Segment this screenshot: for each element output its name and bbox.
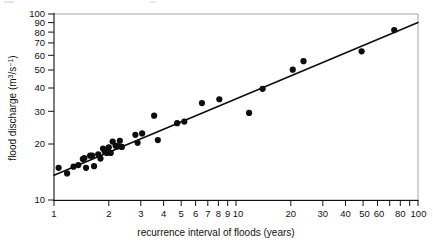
data-point <box>139 130 145 136</box>
data-point <box>359 48 365 54</box>
data-point <box>199 100 205 106</box>
y-axis-title-tail: ) <box>7 55 18 58</box>
x-tick-label-6: 6 <box>193 208 198 219</box>
y-tick-label-60: 60 <box>34 50 45 61</box>
data-point <box>75 162 81 168</box>
data-point <box>106 144 112 150</box>
x-tick-label-2: 2 <box>106 208 111 219</box>
y-axis-title-sup-minus1: −1 <box>7 59 14 67</box>
y-tick-label-40: 40 <box>34 82 45 93</box>
y-axis-title: flood discharge (m3/s−1) <box>7 55 18 160</box>
data-point <box>300 58 306 64</box>
svg-text:flood discharge (m3/s−1): flood discharge (m3/s−1) <box>7 55 18 160</box>
data-point <box>56 165 62 171</box>
x-tick-label-3: 3 <box>138 208 143 219</box>
y-tick-label-10: 10 <box>34 194 45 205</box>
y-tick-label-20: 20 <box>34 138 45 149</box>
data-point <box>290 67 296 73</box>
x-tick-label-80: 80 <box>395 208 406 219</box>
data-point <box>64 170 70 176</box>
data-point <box>83 165 89 171</box>
data-point <box>260 86 266 92</box>
x-axis-ticks <box>54 200 418 206</box>
x-tick-label-20: 20 <box>286 208 297 219</box>
data-point <box>216 96 222 102</box>
data-point <box>246 110 252 116</box>
x-tick-label-10: 10 <box>233 208 244 219</box>
data-point <box>132 132 138 138</box>
y-tick-label-80: 80 <box>34 27 45 38</box>
data-point <box>89 153 95 159</box>
data-point <box>97 155 103 161</box>
x-tick-label-5: 5 <box>179 208 184 219</box>
flood-frequency-figure: 10 20 30 40 50 60 70 80 90 100 <box>0 0 433 245</box>
data-point <box>81 155 87 161</box>
data-point <box>174 120 180 126</box>
data-point <box>155 137 161 143</box>
data-point <box>181 118 187 124</box>
x-tick-label-9: 9 <box>225 208 230 219</box>
data-point <box>119 144 125 150</box>
log-log-scatter-plot: 10 20 30 40 50 60 70 80 90 100 <box>0 0 433 245</box>
y-axis-tick-labels: 10 20 30 40 50 60 70 80 90 100 <box>29 8 45 205</box>
x-tick-label-100: 100 <box>411 208 427 219</box>
data-point <box>391 27 397 33</box>
y-axis-ticks <box>48 14 54 200</box>
y-tick-label-100: 100 <box>29 8 45 19</box>
x-axis-tick-labels: 1 2 3 4 5 6 7 8 9 10 20 30 40 50 60 80 1… <box>51 208 426 219</box>
scatter-points <box>56 27 398 177</box>
y-tick-label-50: 50 <box>34 64 45 75</box>
y-axis-title-mid: /s <box>7 67 18 75</box>
data-point <box>91 163 97 169</box>
x-tick-label-50: 50 <box>359 208 370 219</box>
y-tick-label-30: 30 <box>34 106 45 117</box>
x-tick-label-4: 4 <box>161 208 166 219</box>
x-tick-label-60: 60 <box>374 208 385 219</box>
scan-artifact <box>4 1 156 3</box>
y-tick-label-70: 70 <box>34 37 45 48</box>
x-tick-label-8: 8 <box>216 208 221 219</box>
y-axis-title-lead: flood discharge (m <box>7 78 18 160</box>
x-tick-label-7: 7 <box>205 208 210 219</box>
data-point <box>151 113 157 119</box>
data-point <box>117 138 123 144</box>
plot-frame <box>54 14 418 200</box>
data-point <box>108 150 114 156</box>
x-tick-label-30: 30 <box>318 208 329 219</box>
data-point <box>135 140 141 146</box>
x-tick-label-40: 40 <box>340 208 351 219</box>
x-axis-title: recurrence interval of floods (years) <box>137 227 294 238</box>
x-tick-label-1: 1 <box>51 208 56 219</box>
